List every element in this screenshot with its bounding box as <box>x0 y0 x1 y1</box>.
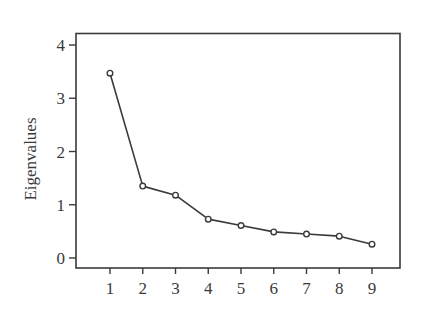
data-point-marker <box>140 183 146 189</box>
x-tick-label: 4 <box>204 279 213 298</box>
y-tick-label: 3 <box>57 89 66 108</box>
data-point-marker <box>336 233 342 239</box>
data-point-marker <box>238 223 244 229</box>
y-tick-label: 4 <box>57 36 66 55</box>
series-line <box>110 73 372 244</box>
data-point-marker <box>205 216 211 222</box>
plot-frame <box>76 34 400 269</box>
data-point-marker <box>173 192 179 198</box>
y-tick-label: 0 <box>57 249 66 268</box>
y-axis: 01234 <box>57 36 77 268</box>
x-tick-label: 9 <box>368 279 377 298</box>
data-point-marker <box>304 231 310 237</box>
x-tick-label: 1 <box>106 279 115 298</box>
x-tick-label: 7 <box>302 279 311 298</box>
x-tick-label: 3 <box>171 279 180 298</box>
x-tick-label: 8 <box>335 279 344 298</box>
data-point-marker <box>271 229 277 235</box>
x-tick-label: 6 <box>270 279 279 298</box>
y-tick-label: 1 <box>57 196 66 215</box>
x-tick-label: 2 <box>139 279 148 298</box>
y-tick-label: 2 <box>57 143 66 162</box>
x-tick-label: 5 <box>237 279 246 298</box>
data-point-marker <box>369 241 375 247</box>
y-axis-label: Eigenvalues <box>21 117 40 200</box>
data-point-marker <box>107 70 113 76</box>
scree-plot: 01234 123456789 Eigenvalues <box>0 0 424 317</box>
x-axis: 123456789 <box>106 268 377 298</box>
chart-canvas: 01234 123456789 Eigenvalues <box>0 0 424 317</box>
series-markers <box>107 70 375 247</box>
